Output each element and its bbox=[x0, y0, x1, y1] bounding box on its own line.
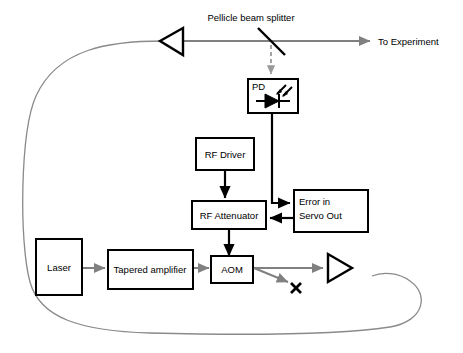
rf-attenuator-label: RF Attenuator bbox=[200, 210, 259, 221]
photodiode-label: PD bbox=[252, 81, 265, 92]
mirror-triangle-left-icon bbox=[160, 28, 183, 55]
servo-out-label: Servo Out bbox=[299, 210, 342, 221]
rf-driver-label: RF Driver bbox=[205, 149, 246, 160]
aom-label: AOM bbox=[221, 264, 243, 275]
pellicle-beam-splitter-label: Pellicle beam splitter bbox=[207, 12, 294, 23]
to-experiment-label: To Experiment bbox=[378, 36, 439, 47]
laser-label: Laser bbox=[47, 262, 71, 273]
tapered-amplifier-label: Tapered amplifier bbox=[114, 264, 187, 275]
diagram-canvas: Pellicle beam splitter To Experiment PD … bbox=[0, 0, 463, 353]
beam-dump-x-icon bbox=[291, 283, 301, 293]
optical-setup-diagram: Pellicle beam splitter To Experiment PD … bbox=[0, 0, 463, 353]
mirror-triangle-right-icon bbox=[328, 254, 352, 282]
beam-aom-to-dump bbox=[254, 268, 288, 282]
signal-pd-to-servo bbox=[272, 113, 290, 203]
error-in-label: Error in bbox=[299, 196, 330, 207]
